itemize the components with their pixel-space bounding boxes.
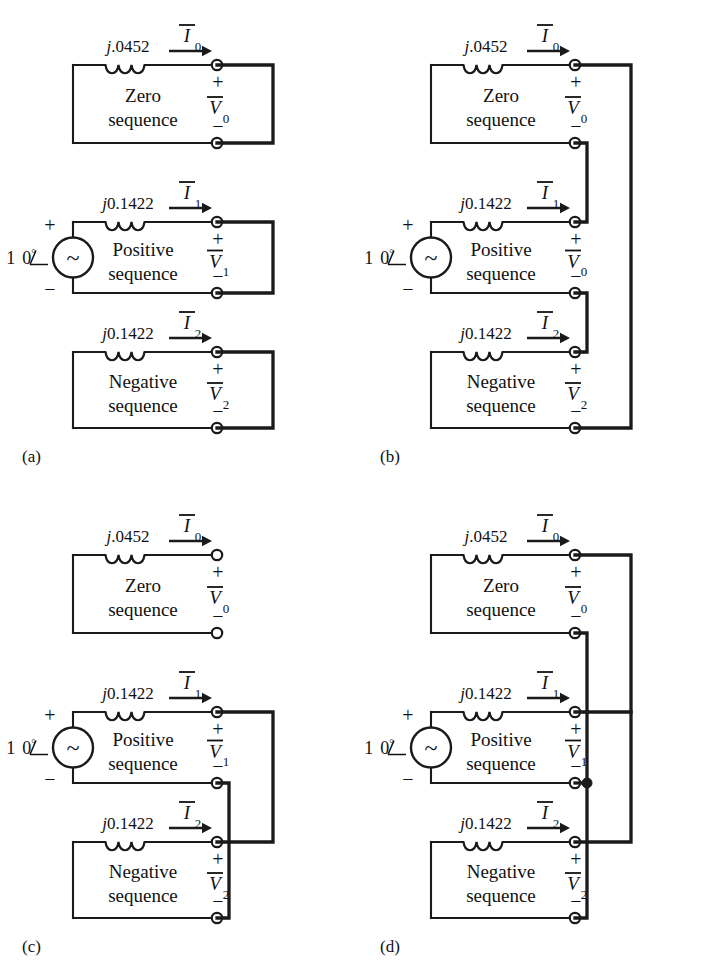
voltage-plus-zero: +: [212, 71, 223, 93]
block-label-line2-zero: sequence: [466, 599, 536, 620]
current-label-negative-subscript: 2: [195, 816, 202, 831]
panel-caption-c: (c): [22, 937, 41, 956]
impedance-label-negative: j0.1422: [458, 324, 511, 343]
terminal-bottom-zero[interactable]: [212, 628, 222, 638]
block-label-line1-negative: Negative: [109, 861, 178, 882]
source-minus-sign: −: [402, 768, 413, 790]
current-label-positive-subscript: 1: [553, 196, 560, 211]
source-plus-sign: +: [44, 704, 55, 726]
impedance-label-negative-text: j0.1422: [458, 324, 511, 343]
source-minus-sign: −: [44, 768, 55, 790]
block-label-line1-zero: Zero: [483, 85, 519, 106]
sequence-network-figure: j.0452I0Zerosequence+−V0~10°+−j0.1422I1P…: [0, 0, 716, 968]
impedance-label-positive-value: 0.1422: [107, 194, 154, 213]
voltage-plus-zero: +: [570, 561, 581, 583]
source-magnitude: 1: [6, 248, 15, 268]
panel-caption-d: (d): [380, 937, 400, 956]
block-label-line2-positive: sequence: [108, 753, 178, 774]
impedance-label-zero-text: j.0452: [463, 37, 508, 56]
current-label-zero-subscript: 0: [195, 529, 202, 544]
source-magnitude: 1: [6, 738, 15, 758]
source-plus-sign: +: [402, 214, 413, 236]
junction-dot-positive-bottom: [582, 778, 592, 788]
voltage-plus-positive: +: [212, 718, 223, 740]
voltage-label-zero-subscript: 0: [223, 111, 230, 126]
block-label-line2-zero: sequence: [108, 109, 178, 130]
ac-source-glyph: ~: [67, 735, 80, 761]
voltage-plus-negative: +: [212, 848, 223, 870]
impedance-label-zero-text: j.0452: [105, 527, 150, 546]
impedance-label-positive: j0.1422: [458, 684, 511, 703]
impedance-label-zero-value: .0452: [469, 37, 507, 56]
voltage-label-positive-subscript: 1: [223, 264, 230, 279]
voltage-label-positive-subscript: 1: [223, 754, 230, 769]
current-label-positive-subscript: 1: [195, 196, 202, 211]
current-label-zero-subscript: 0: [553, 529, 560, 544]
voltage-plus-positive: +: [570, 718, 581, 740]
impedance-label-positive-value: 0.1422: [107, 684, 154, 703]
block-label-line1-zero: Zero: [483, 575, 519, 596]
panel-caption-a: (a): [22, 447, 41, 466]
voltage-plus-positive: +: [212, 228, 223, 250]
source-angle-value: 0: [380, 248, 389, 268]
block-label-line2-negative: sequence: [466, 395, 536, 416]
impedance-label-zero-text: j.0452: [463, 527, 508, 546]
impedance-label-positive-text: j0.1422: [458, 684, 511, 703]
impedance-label-negative: j0.1422: [458, 814, 511, 833]
block-label-line1-negative: Negative: [467, 861, 536, 882]
source-plus-sign: +: [402, 704, 413, 726]
current-label-negative-subscript: 2: [553, 816, 560, 831]
block-label-line2-zero: sequence: [466, 109, 536, 130]
impedance-label-negative-text: j0.1422: [458, 814, 511, 833]
impedance-label-zero: j.0452: [463, 37, 508, 56]
source-plus-sign: +: [44, 214, 55, 236]
current-label-positive-subscript: 1: [553, 686, 560, 701]
impedance-label-zero-value: .0452: [469, 527, 507, 546]
block-label-line1-positive: Positive: [470, 239, 531, 260]
current-label-negative-subscript: 2: [553, 326, 560, 341]
impedance-label-zero-text: j.0452: [105, 37, 150, 56]
impedance-label-zero: j.0452: [105, 37, 150, 56]
block-label-line2-negative: sequence: [108, 885, 178, 906]
voltage-label-positive-subscript: 0: [581, 264, 588, 279]
block-label-line2-positive: sequence: [466, 753, 536, 774]
voltage-plus-negative: +: [570, 848, 581, 870]
impedance-label-positive: j0.1422: [100, 684, 153, 703]
panel-caption-b: (b): [380, 447, 400, 466]
voltage-plus-negative: +: [212, 358, 223, 380]
block-label-line1-negative: Negative: [467, 371, 536, 392]
impedance-label-zero: j.0452: [463, 527, 508, 546]
voltage-label-negative-subscript: 2: [223, 397, 230, 412]
voltage-plus-zero: +: [570, 71, 581, 93]
voltage-plus-negative: +: [570, 358, 581, 380]
source-angle-value: 0: [380, 738, 389, 758]
impedance-label-zero-value: .0452: [111, 527, 149, 546]
impedance-label-negative: j0.1422: [100, 324, 153, 343]
impedance-label-positive: j0.1422: [100, 194, 153, 213]
impedance-label-positive-text: j0.1422: [100, 194, 153, 213]
voltage-label-zero-subscript: 0: [581, 111, 588, 126]
block-label-line2-positive: sequence: [466, 263, 536, 284]
block-label-line2-zero: sequence: [108, 599, 178, 620]
current-label-positive-subscript: 1: [195, 686, 202, 701]
ac-source-glyph: ~: [67, 245, 80, 271]
block-label-line2-positive: sequence: [108, 263, 178, 284]
block-label-line1-positive: Positive: [112, 239, 173, 260]
block-label-line1-positive: Positive: [112, 729, 173, 750]
terminal-top-zero[interactable]: [212, 550, 222, 560]
impedance-label-negative-text: j0.1422: [100, 814, 153, 833]
voltage-label-zero-subscript: 0: [581, 601, 588, 616]
impedance-label-negative-value: 0.1422: [107, 814, 154, 833]
ac-source-glyph: ~: [425, 245, 438, 271]
block-label-line2-negative: sequence: [466, 885, 536, 906]
impedance-label-positive-text: j0.1422: [100, 684, 153, 703]
block-label-line1-negative: Negative: [109, 371, 178, 392]
impedance-label-zero: j.0452: [105, 527, 150, 546]
impedance-label-zero-value: .0452: [111, 37, 149, 56]
impedance-label-negative-value: 0.1422: [107, 324, 154, 343]
voltage-label-negative-subscript: 2: [581, 397, 588, 412]
block-label-line1-zero: Zero: [125, 575, 161, 596]
current-label-zero-subscript: 0: [195, 39, 202, 54]
impedance-label-negative-value: 0.1422: [465, 814, 512, 833]
voltage-plus-positive: +: [570, 228, 581, 250]
